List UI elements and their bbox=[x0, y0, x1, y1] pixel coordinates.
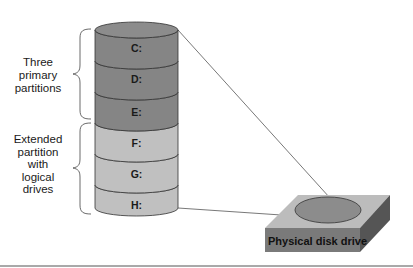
partition-label-h: H: bbox=[131, 199, 142, 211]
disk-label: Physical disk drive bbox=[268, 235, 367, 247]
disk-platter bbox=[295, 197, 361, 223]
svg-text:partitions: partitions bbox=[15, 82, 62, 94]
physical-disk-drive: Physical disk drive bbox=[265, 195, 390, 252]
extended-partition-label: Extended partition with logical drives bbox=[14, 133, 63, 195]
svg-text:Three: Three bbox=[23, 56, 53, 68]
svg-text:primary: primary bbox=[19, 69, 58, 81]
partition-label-f: F: bbox=[132, 137, 142, 149]
partition-label-d: D: bbox=[131, 73, 142, 85]
partition-label-c: C: bbox=[131, 42, 142, 54]
partition-diagram: C: D: E: F: G: H: Three primary partitio… bbox=[0, 0, 413, 268]
svg-text:with: with bbox=[27, 158, 48, 170]
partition-label-g: G: bbox=[131, 168, 143, 180]
svg-text:partition: partition bbox=[18, 146, 59, 158]
svg-text:drives: drives bbox=[23, 183, 54, 195]
svg-text:logical: logical bbox=[22, 171, 55, 183]
primary-brace bbox=[73, 29, 91, 119]
connector-line-top bbox=[178, 30, 330, 198]
extended-brace bbox=[73, 123, 91, 214]
svg-text:Extended: Extended bbox=[14, 133, 63, 145]
partition-label-e: E: bbox=[131, 106, 142, 118]
primary-partitions-label: Three primary partitions bbox=[15, 56, 62, 94]
cylinder-top-cap bbox=[95, 22, 178, 38]
